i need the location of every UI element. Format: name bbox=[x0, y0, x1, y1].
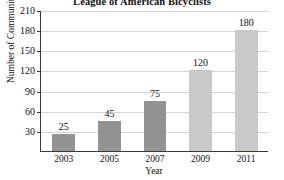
chart-title: League of American Bicyclists bbox=[0, 0, 284, 7]
bar-value-label: 45 bbox=[104, 108, 114, 119]
y-tick-mark bbox=[37, 51, 41, 52]
bar: 180 bbox=[235, 30, 258, 151]
bar: 120 bbox=[189, 70, 212, 151]
y-tick-mark bbox=[37, 11, 41, 12]
y-tick-mark bbox=[37, 31, 41, 32]
y-tick-mark bbox=[37, 92, 41, 93]
bar-value-label: 25 bbox=[59, 121, 69, 132]
plot-area: 306090120150180210 254575120180 20032005… bbox=[40, 11, 268, 152]
y-tick-label: 90 bbox=[25, 87, 35, 97]
x-tick-label: 2009 bbox=[191, 154, 210, 165]
bar: 25 bbox=[52, 134, 75, 151]
x-tick-label: 2011 bbox=[237, 154, 256, 165]
x-axis-title: Year bbox=[40, 166, 268, 177]
x-tick-label: 2005 bbox=[100, 154, 119, 165]
bar: 45 bbox=[98, 121, 121, 151]
y-tick-mark bbox=[37, 71, 41, 72]
x-tick-label: 2007 bbox=[146, 154, 165, 165]
x-tick-label: 2003 bbox=[54, 154, 73, 165]
y-tick-label: 60 bbox=[25, 107, 35, 117]
y-tick-label: 210 bbox=[20, 6, 35, 16]
bar-value-label: 180 bbox=[239, 17, 254, 28]
bar-chart: League of American Bicyclists Number of … bbox=[0, 0, 284, 180]
bar: 75 bbox=[144, 101, 167, 151]
y-tick-label: 120 bbox=[20, 66, 35, 76]
bar-value-label: 75 bbox=[150, 88, 160, 99]
y-tick-label: 30 bbox=[25, 127, 35, 137]
y-axis-title: Number of Communities bbox=[6, 0, 17, 97]
y-tick-label: 180 bbox=[20, 26, 35, 36]
y-tick-mark bbox=[37, 132, 41, 133]
y-tick-mark bbox=[37, 112, 41, 113]
bar-value-label: 120 bbox=[193, 57, 208, 68]
y-tick-label: 150 bbox=[20, 46, 35, 56]
gridline bbox=[41, 11, 268, 12]
